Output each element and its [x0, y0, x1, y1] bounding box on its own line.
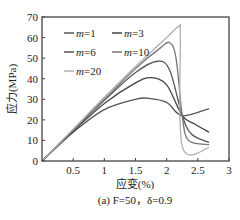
y-tick-label: 70: [27, 11, 39, 23]
legend-label: m=20: [76, 65, 102, 77]
y-tick-label: 10: [27, 134, 39, 146]
y-axis-label: 应力(MPa): [5, 64, 19, 114]
y-tick-label: 30: [27, 93, 39, 105]
y-tick-label: 60: [27, 32, 39, 44]
x-tick-label: 1.5: [129, 164, 143, 176]
x-tick-label: 3: [226, 164, 232, 176]
plot-area: [42, 24, 209, 161]
x-tick-label: 0.5: [66, 164, 80, 176]
y-tick-label: 0: [33, 155, 39, 167]
x-tick-label: 1: [102, 164, 108, 176]
series-line-m-20: [42, 24, 209, 161]
y-tick-label: 50: [27, 52, 39, 64]
x-tick-label: 2.5: [191, 164, 205, 176]
legend-label: m=3: [124, 27, 144, 39]
y-tick-label: 20: [27, 114, 39, 126]
x-axis-label: 应变(%): [116, 177, 155, 191]
figure-caption: (a) F=50，δ=0.9: [98, 194, 173, 207]
legend-label: m=1: [76, 27, 96, 39]
legend-label: m=10: [124, 46, 150, 58]
y-tick-label: 40: [27, 73, 39, 85]
stress-strain-chart: 010203040506070 0.511.522.53 m=1m=3m=6m=…: [0, 0, 240, 220]
legend: m=1m=3m=6m=10m=20: [64, 27, 150, 77]
legend-label: m=6: [76, 46, 96, 58]
x-tick-label: 2: [164, 164, 170, 176]
